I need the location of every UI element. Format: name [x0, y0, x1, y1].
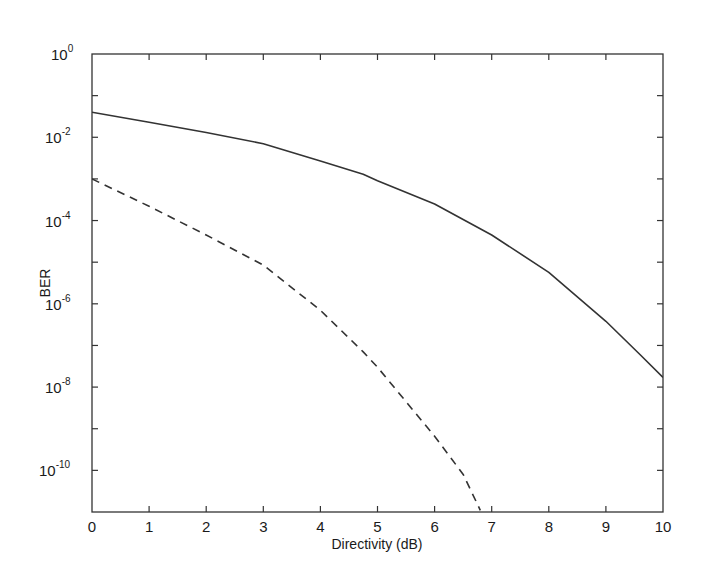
- x-tick-label: 4: [316, 518, 324, 535]
- x-tick-label: 8: [545, 518, 553, 535]
- x-tick-label: 10: [655, 518, 672, 535]
- data-series: [92, 112, 663, 510]
- x-axis-label: Directivity (dB): [331, 536, 422, 552]
- y-tick-label: 10-10: [39, 459, 71, 479]
- plot-frame: [92, 54, 663, 512]
- y-tick-label: 10-4: [45, 210, 71, 230]
- x-tick-label: 6: [430, 518, 438, 535]
- x-tick-label: 7: [488, 518, 496, 535]
- y-tick-label: 100: [51, 43, 74, 63]
- x-tick-label: 0: [88, 518, 96, 535]
- y-tick-label: 10-8: [45, 376, 71, 396]
- series-solid-line: [92, 112, 663, 377]
- ber-vs-directivity-chart: 012345678910 10010-210-410-610-810-10 Di…: [0, 0, 704, 579]
- y-axis-label: BER: [37, 269, 53, 298]
- x-tick-label: 1: [145, 518, 153, 535]
- y-tick-label: 10-2: [45, 126, 71, 146]
- x-tick-label: 9: [602, 518, 610, 535]
- x-tick-label: 2: [202, 518, 210, 535]
- series-dashed-line: [92, 179, 480, 510]
- x-tick-label: 5: [373, 518, 381, 535]
- x-tick-label: 3: [259, 518, 267, 535]
- y-axis-ticks: 10010-210-410-610-810-10: [39, 43, 663, 479]
